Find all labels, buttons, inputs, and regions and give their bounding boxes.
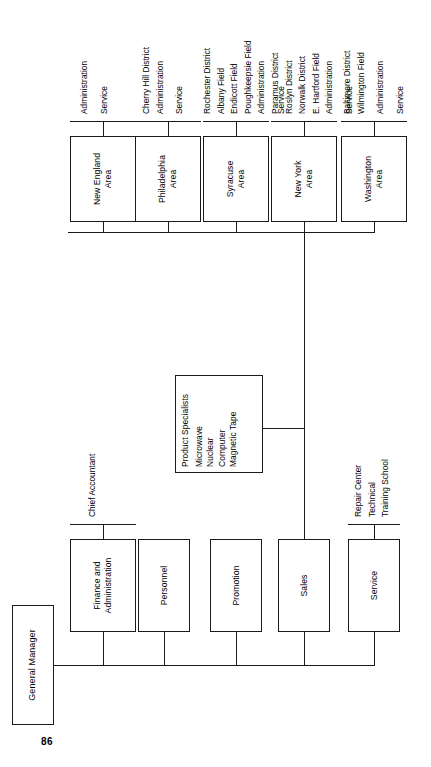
node-philadelphia-area[interactable]: Philadelphia Area [135,136,201,222]
product-specialist-item: Computer [217,429,228,467]
sublist-item: Baltimore District [341,51,355,114]
connector-to-syracuse-area [236,222,237,233]
node-label-line1: New England [92,153,103,205]
connector-new-england-subs [103,122,104,136]
node-label-line1: Washington [363,156,374,202]
node-label-line2: Area [168,170,179,189]
node-new-york-area[interactable]: New York Area [271,136,337,222]
sublist-item: E. Hartford Field [310,53,324,114]
bracket-washington-subs [341,121,407,122]
sublist-item: Training School [379,459,393,517]
node-finance-and-administration[interactable]: Finance and Administration [70,539,136,632]
node-label: Sales [299,575,310,597]
node-label-line2: Area [103,170,114,189]
sublist-item: Roslyn District [283,53,297,114]
node-new-england-area[interactable]: New England Area [70,136,136,222]
sublist-item: Service [394,51,408,114]
node-sales[interactable]: Sales [278,539,330,632]
connector-to-new-england-area [103,222,104,233]
sublist-philadelphia-area: Cherry Hill District Administration Serv… [140,47,187,114]
sublist-item: Service [98,61,112,114]
product-specialist-item: Magnetic Tape [228,411,239,467]
bracket-new-england-subs [70,121,136,122]
node-product-specialists[interactable]: Product Specialists Microwave Nuclear Co… [175,375,263,473]
node-label-line1: New York [293,160,304,197]
org-chart-canvas: General Manager Finance and Administrati… [0,0,431,767]
sublist-service: Repair Center Technical Training School [352,459,393,517]
sublist-new-england-area: Administration Service [78,61,111,114]
sublist-item: Administration [323,53,337,114]
node-label-line2: Area [374,170,385,189]
node-service[interactable]: Service [348,539,400,632]
bracket-finance-subs [70,524,136,525]
connector-philadelphia-subs [168,122,169,136]
product-specialist-item: Nuclear [205,437,216,467]
node-label-line2: Administration [103,558,114,614]
connector-service-subs [374,525,375,539]
sublist-item: Cherry Hill District [140,47,154,114]
node-syracuse-area[interactable]: Syracuse Area [203,136,269,222]
sublist-item: Service [173,47,187,114]
sublist-item: Administration [154,47,168,114]
node-label-line1: Philadelphia [157,155,168,203]
sublist-item: Wilmington Field [355,51,369,114]
sublist-item: Norwalk District [296,53,310,114]
node-label: Personnel [159,566,170,606]
node-promotion[interactable]: Promotion [210,539,262,632]
sublist-item: Administration [255,40,269,114]
sublist-item: Endicott Field [228,40,242,114]
bracket-philadelphia-subs [135,121,201,122]
node-personnel[interactable]: Personnel [138,539,190,632]
connector-finance-subs [103,525,104,539]
node-label-line1: Finance and [92,561,103,609]
bracket-syracuse-subs [203,121,269,122]
node-label: Product Specialists [180,394,191,467]
connector-washington-subs [374,122,375,136]
node-general-manager[interactable]: General Manager [12,605,54,725]
connector-to-philadelphia-area [168,222,169,233]
connector-to-sales [304,632,305,666]
node-label: Service [369,571,380,600]
connector-sales-to-areas [304,233,305,539]
sublist-item: Albany Field [215,40,229,114]
bracket-new-york-subs [271,121,337,122]
page-number: 86 [41,736,53,747]
connector-to-finance [103,632,104,666]
node-label-line1: Syracuse [225,161,236,198]
sublist-item: Paramus District [269,53,283,114]
bracket-service-subs [348,524,400,525]
connector-to-service [374,632,375,666]
node-label-line2: Area [304,170,315,189]
sublist-item: Rochester District [201,40,215,114]
node-label-line2: Area [236,170,247,189]
sublist-item: Poughkeepsie Field [242,40,256,114]
connector-to-personnel [164,632,165,666]
connector-syracuse-subs [236,122,237,136]
sublist-item: Chief Accountant [86,454,100,517]
product-specialist-item: Microwave [194,426,205,467]
connector-to-washington-area [374,222,375,233]
sublist-item: Administration [78,61,92,114]
sublist-washington-area: Baltimore District Wilmington Field Admi… [341,51,407,114]
connector-to-new-york-area [304,222,305,233]
node-washington-area[interactable]: Washington Area [341,136,407,222]
sublist-item: Technical [366,459,380,517]
sublist-finance: Chief Accountant [86,454,100,517]
connector-new-york-subs [304,122,305,136]
node-label: General Manager [27,629,39,701]
sublist-item: Administration [374,51,388,114]
trunk-vertical-areas [68,232,374,233]
trunk-vertical-main [54,665,374,666]
sublist-item: Repair Center [352,459,366,517]
node-label: Promotion [231,565,242,605]
connector-to-product-specialists [262,428,304,429]
connector-to-promotion [236,632,237,666]
